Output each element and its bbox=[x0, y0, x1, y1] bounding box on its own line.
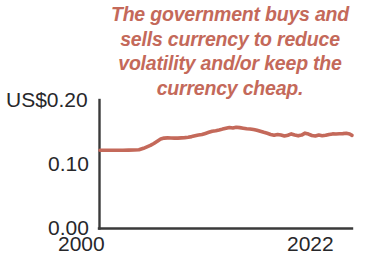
currency-exchange-rate-chart: The government buys and sells currency t… bbox=[0, 0, 374, 259]
plot-area bbox=[0, 0, 374, 259]
data-series-line bbox=[100, 127, 352, 150]
